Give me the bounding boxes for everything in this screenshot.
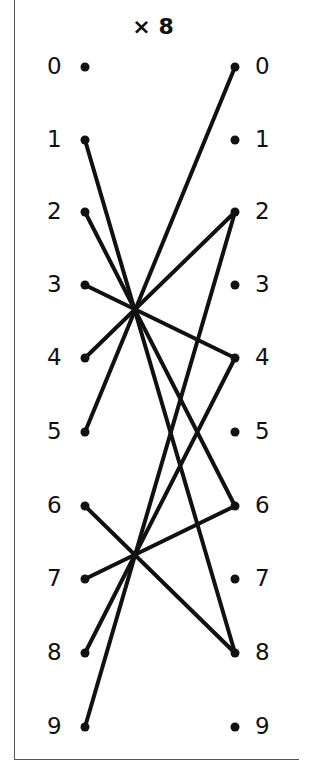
right-dot-1	[231, 136, 240, 145]
left-dot-3	[81, 281, 90, 290]
right-dot-0	[231, 63, 240, 72]
right-dot-5	[231, 428, 240, 437]
left-dot-0	[81, 63, 90, 72]
right-label-1: 1	[255, 128, 270, 151]
left-label-3: 3	[47, 273, 62, 296]
right-dot-2	[231, 208, 240, 217]
right-label-2: 2	[255, 200, 270, 223]
right-label-8: 8	[255, 641, 270, 664]
left-label-1: 1	[47, 128, 62, 151]
right-dot-9	[231, 723, 240, 732]
left-label-5: 5	[47, 420, 62, 443]
right-label-7: 7	[255, 567, 270, 590]
right-dot-8	[231, 649, 240, 658]
left-dot-8	[81, 649, 90, 658]
left-dot-4	[81, 354, 90, 363]
connection-line-2-to-6	[85, 212, 235, 506]
left-label-9: 9	[47, 715, 62, 738]
connection-line-1-to-8	[85, 140, 235, 653]
connection-line-5-to-0	[85, 67, 235, 432]
left-label-6: 6	[47, 494, 62, 517]
left-label-8: 8	[47, 641, 62, 664]
right-label-9: 9	[255, 715, 270, 738]
connection-line-7-to-6	[85, 506, 235, 579]
left-label-0: 0	[47, 55, 62, 78]
right-label-3: 3	[255, 273, 270, 296]
connection-line-9-to-2	[85, 212, 235, 727]
left-dot-7	[81, 575, 90, 584]
left-dot-9	[81, 723, 90, 732]
right-label-4: 4	[255, 346, 270, 369]
right-dot-4	[231, 354, 240, 363]
right-dot-7	[231, 575, 240, 584]
left-dot-2	[81, 208, 90, 217]
right-label-5: 5	[255, 420, 270, 443]
left-label-2: 2	[47, 200, 62, 223]
left-dot-6	[81, 502, 90, 511]
left-dot-5	[81, 428, 90, 437]
left-label-4: 4	[47, 346, 62, 369]
left-dot-1	[81, 136, 90, 145]
right-label-6: 6	[255, 494, 270, 517]
right-label-0: 0	[255, 55, 270, 78]
right-dot-3	[231, 281, 240, 290]
left-label-7: 7	[47, 567, 62, 590]
right-dot-6	[231, 502, 240, 511]
